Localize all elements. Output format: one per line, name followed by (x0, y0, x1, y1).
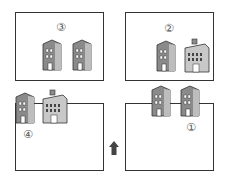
panel-2-label: ② (164, 23, 174, 34)
panel-4-label: ④ (23, 129, 33, 140)
building-icon (152, 86, 170, 116)
building-icon (16, 93, 34, 123)
building-icon (43, 40, 61, 70)
panel-3-label: ③ (56, 22, 66, 33)
building-icon (43, 90, 67, 123)
panel-1-label: ① (186, 122, 196, 133)
buildings-layer (0, 0, 227, 183)
building-icon (181, 86, 199, 116)
building-icon (157, 41, 175, 71)
building-icon (73, 40, 91, 70)
building-icon (185, 39, 209, 72)
arrow-up-icon (109, 141, 119, 155)
